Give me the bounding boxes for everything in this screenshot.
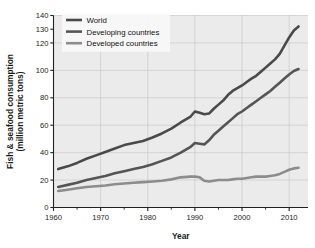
y-tick-label: 130 [36,25,49,34]
x-tick-label: 1960 [45,213,62,222]
y-tick-label: 80 [40,93,48,102]
y-tick-label: 120 [36,39,49,48]
y-tick-label: 0 [44,203,48,212]
chart-legend: WorldDeveloping countriesDeveloped count… [62,14,170,52]
x-tick-label: 1980 [139,213,156,222]
y-tick-label: 20 [40,176,48,185]
x-axis-label: Year [172,231,190,241]
legend-label: World [87,16,107,25]
x-tick-label: 2010 [281,213,298,222]
x-tick-label: 1970 [92,213,109,222]
y-tick-label: 40 [40,148,48,157]
y-tick-label: 140 [36,11,49,20]
x-tick-label: 2000 [234,213,251,222]
y-tick-label: 100 [36,66,49,75]
y-axis-label-line1: Fish & seafood consumption [5,54,15,169]
fish-seafood-consumption-chart: 020406080100120130140 196019701980199020… [0,0,315,248]
legend-label: Developing countries [87,28,160,37]
x-tick-label: 1990 [186,213,203,222]
chart-canvas: 020406080100120130140 196019701980199020… [0,0,315,248]
y-axis-label-line2: (million metric tons) [15,71,25,151]
legend-label: Developed countries [87,39,158,48]
y-tick-label: 60 [40,121,48,130]
